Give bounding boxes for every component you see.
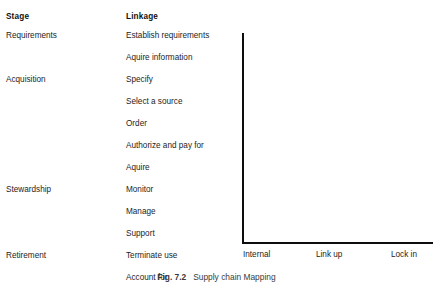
cell-linkage: Select a source bbox=[126, 97, 182, 107]
cell-linkage: Specify bbox=[126, 75, 153, 85]
chart-panel: Internal Link up Lock in bbox=[232, 0, 433, 280]
cell-stage: Acquisition bbox=[6, 75, 46, 85]
cell-stage: Stewardship bbox=[6, 185, 51, 195]
x-axis-line bbox=[242, 242, 433, 244]
table-header-stage: Stage bbox=[6, 12, 29, 21]
stage-linkage-table: Stage Linkage Requirements Establish req… bbox=[0, 0, 232, 280]
plot-frame bbox=[232, 0, 433, 252]
table-row: Stewardship Monitor bbox=[0, 185, 232, 207]
cell-linkage: Establish requirements bbox=[126, 31, 209, 41]
cell-linkage: Aquire information bbox=[126, 53, 192, 63]
table-row: Support bbox=[0, 229, 232, 251]
cell-stage: Retirement bbox=[6, 251, 46, 261]
table-row: Order bbox=[0, 119, 232, 141]
table-row: Retirement Terminate use bbox=[0, 251, 232, 273]
table-row: Authorize and pay for bbox=[0, 141, 232, 163]
table-header-linkage: Linkage bbox=[126, 12, 158, 21]
x-tick-label-link-up: Link up bbox=[316, 250, 342, 259]
figure-caption: Fig. 7.2 Supply chain Mapping bbox=[0, 272, 433, 282]
figure-caption-label: Fig. 7.2 bbox=[157, 272, 186, 282]
figure-caption-text: Supply chain Mapping bbox=[193, 272, 275, 282]
table-row: Acquisition Specify bbox=[0, 75, 232, 97]
cell-linkage: Support bbox=[126, 229, 155, 239]
table-row: Requirements Establish requirements bbox=[0, 31, 232, 53]
x-axis-tick-labels: Internal Link up Lock in bbox=[232, 250, 433, 264]
cell-stage: Requirements bbox=[6, 31, 57, 41]
table-row: Aquire information bbox=[0, 53, 232, 75]
cell-linkage: Order bbox=[126, 119, 147, 129]
cell-linkage: Authorize and pay for bbox=[126, 141, 204, 151]
table-row: Select a source bbox=[0, 97, 232, 119]
cell-linkage: Terminate use bbox=[126, 251, 177, 261]
plot-area bbox=[244, 33, 433, 242]
cell-linkage: Monitor bbox=[126, 185, 153, 195]
x-tick-label-internal: Internal bbox=[243, 250, 270, 259]
x-tick-label-lock-in: Lock in bbox=[391, 250, 417, 259]
table-row: Aquire bbox=[0, 163, 232, 185]
table-row: Manage bbox=[0, 207, 232, 229]
cell-linkage: Manage bbox=[126, 207, 156, 217]
cell-linkage: Aquire bbox=[126, 163, 150, 173]
